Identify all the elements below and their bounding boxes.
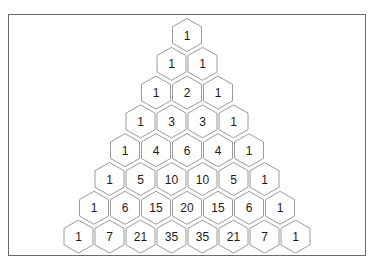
cell-value: 10 — [165, 173, 179, 187]
hex-cell: 6 — [235, 191, 264, 224]
hex-cell: 35 — [188, 220, 217, 253]
cell-value: 7 — [106, 230, 113, 244]
cell-value: 3 — [199, 115, 206, 129]
cell-value: 1 — [246, 144, 253, 158]
hex-cell: 6 — [173, 134, 202, 167]
cell-value: 6 — [122, 201, 129, 215]
hex-cell: 4 — [142, 134, 171, 167]
cell-value: 6 — [184, 144, 191, 158]
cell-value: 1 — [153, 86, 160, 100]
hex-cell: 1 — [250, 163, 279, 196]
hex-cell: 10 — [157, 163, 186, 196]
cell-value: 5 — [137, 173, 144, 187]
hex-cell: 1 — [64, 220, 93, 253]
hex-cell: 5 — [126, 163, 155, 196]
hex-cell: 1 — [219, 105, 248, 138]
cell-value: 5 — [230, 173, 237, 187]
hex-cell: 10 — [188, 163, 217, 196]
hex-cell: 6 — [111, 191, 140, 224]
hex-cell: 1 — [266, 191, 295, 224]
cell-value: 1 — [292, 230, 299, 244]
hex-cell: 1 — [235, 134, 264, 167]
cell-value: 1 — [122, 144, 129, 158]
cell-value: 35 — [196, 230, 210, 244]
cell-value: 3 — [168, 115, 175, 129]
cell-value: 1 — [137, 115, 144, 129]
cell-value: 35 — [165, 230, 179, 244]
pascal-triangle: 1111211331146411510105116152015611721353… — [0, 0, 375, 260]
hex-cell: 20 — [173, 191, 202, 224]
cell-value: 21 — [134, 230, 148, 244]
hex-cell: 15 — [204, 191, 233, 224]
cell-value: 15 — [149, 201, 163, 215]
hex-cell: 21 — [219, 220, 248, 253]
cell-value: 7 — [261, 230, 268, 244]
hex-cell: 1 — [204, 76, 233, 109]
hex-cell: 3 — [188, 105, 217, 138]
cell-value: 21 — [227, 230, 241, 244]
hex-cell: 1 — [126, 105, 155, 138]
cell-value: 1 — [106, 173, 113, 187]
hex-cell: 3 — [157, 105, 186, 138]
hex-cell: 7 — [95, 220, 124, 253]
cell-value: 4 — [153, 144, 160, 158]
hex-cell: 1 — [173, 19, 202, 52]
cell-value: 1 — [230, 115, 237, 129]
cell-value: 1 — [261, 173, 268, 187]
cell-value: 20 — [180, 201, 194, 215]
hex-cell: 1 — [157, 47, 186, 80]
cell-value: 2 — [184, 86, 191, 100]
hex-cell: 1 — [80, 191, 109, 224]
hex-cell: 1 — [281, 220, 310, 253]
hex-cell: 4 — [204, 134, 233, 167]
hex-cell: 35 — [157, 220, 186, 253]
cell-value: 6 — [246, 201, 253, 215]
hex-cell: 1 — [111, 134, 140, 167]
hex-cell: 1 — [142, 76, 171, 109]
cell-value: 1 — [75, 230, 82, 244]
cell-value: 15 — [211, 201, 225, 215]
cell-value: 1 — [184, 29, 191, 43]
hex-cell: 1 — [95, 163, 124, 196]
cell-value: 1 — [91, 201, 98, 215]
cell-value: 1 — [215, 86, 222, 100]
hex-cell: 5 — [219, 163, 248, 196]
cell-value: 1 — [168, 57, 175, 71]
hex-cell: 2 — [173, 76, 202, 109]
hex-cell: 7 — [250, 220, 279, 253]
hex-cell: 21 — [126, 220, 155, 253]
cell-value: 1 — [199, 57, 206, 71]
hex-cell: 1 — [188, 47, 217, 80]
hex-cell: 15 — [142, 191, 171, 224]
cell-value: 10 — [196, 173, 210, 187]
cell-value: 1 — [277, 201, 284, 215]
cell-value: 4 — [215, 144, 222, 158]
